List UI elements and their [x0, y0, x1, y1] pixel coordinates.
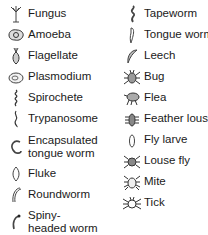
legend-label: Mite	[144, 173, 166, 188]
tapeworm-icon	[120, 5, 144, 23]
legend-item-flea: Flea	[120, 89, 166, 107]
legend-label: Bug	[144, 68, 164, 83]
legend-label: Spirochete	[28, 89, 83, 104]
legend-item-roundworm: Roundworm	[4, 186, 90, 204]
legend-label: Encapsulated tongue worm	[28, 132, 98, 160]
legend-item-tapeworm: Tapeworm	[120, 5, 197, 23]
legend-item-spirochete: Spirochete	[4, 89, 83, 107]
trypanosome-icon	[4, 110, 28, 128]
legend-label: Leech	[144, 47, 175, 62]
flagellate-icon	[4, 47, 28, 65]
legend-item-louse-fly: Louse fly	[120, 152, 190, 170]
legend-item-spiny-headed-worm: Spiny-headed worm	[4, 207, 98, 235]
flea-icon	[120, 89, 144, 107]
legend-label: Flagellate	[28, 47, 78, 62]
legend-item-fungus: Fungus	[4, 5, 66, 23]
legend-label: Fluke	[28, 165, 56, 180]
fly-larve-icon	[120, 131, 144, 149]
feather-louse-icon	[120, 110, 144, 128]
tongue-worm-icon	[120, 26, 144, 44]
fluke-icon	[4, 165, 28, 183]
legend-label: Tick	[144, 194, 165, 209]
legend-label: Fly larve	[144, 131, 187, 146]
legend-label: Plasmodium	[28, 68, 91, 83]
legend-item-amoeba: Amoeba	[4, 26, 71, 44]
legend-item-flagellate: Flagellate	[4, 47, 78, 65]
bug-icon	[120, 68, 144, 86]
legend-item-tick: Tick	[120, 194, 165, 212]
legend-label: Roundworm	[28, 186, 90, 201]
legend-item-fly-larve: Fly larve	[120, 131, 187, 149]
encapsulated-tongue-worm-icon	[4, 138, 28, 156]
legend-label: Trypanosome	[28, 110, 98, 125]
legend-item-fluke: Fluke	[4, 165, 56, 183]
legend-item-trypanosome: Trypanosome	[4, 110, 98, 128]
legend-item-tongue-worm: Tongue worm	[120, 26, 208, 44]
louse-fly-icon	[120, 152, 144, 170]
legend-label: Flea	[144, 89, 166, 104]
legend-label: Feather louse	[144, 110, 208, 125]
legend-label: Spiny-headed worm	[28, 207, 98, 235]
legend-item-mite: Mite	[120, 173, 166, 191]
mite-icon	[120, 173, 144, 191]
plasmodium-icon	[4, 68, 28, 86]
legend-label: Louse fly	[144, 152, 190, 167]
legend-label: Tongue worm	[144, 26, 208, 41]
leech-icon	[120, 47, 144, 65]
fungus-icon	[4, 5, 28, 23]
legend-label: Fungus	[28, 5, 66, 20]
legend-item-feather-louse: Feather louse	[120, 110, 208, 128]
legend-item-leech: Leech	[120, 47, 175, 65]
legend-item-encapsulated-tongue-worm: Encapsulated tongue worm	[4, 132, 98, 160]
legend-label: Tapeworm	[144, 5, 197, 20]
roundworm-icon	[4, 186, 28, 204]
legend-item-bug: Bug	[120, 68, 164, 86]
spiny-headed-worm-icon	[4, 213, 28, 231]
tick-icon	[120, 194, 144, 212]
legend-label: Amoeba	[28, 26, 71, 41]
legend-item-plasmodium: Plasmodium	[4, 68, 91, 86]
spirochete-icon	[4, 89, 28, 107]
amoeba-icon	[4, 26, 28, 44]
